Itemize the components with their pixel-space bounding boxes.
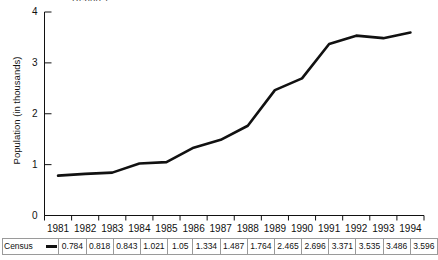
- y-axis-tick-label: 2: [20, 108, 38, 119]
- table-cell-value: 3.596: [410, 239, 437, 255]
- y-axis-tick-label: 3: [20, 57, 38, 68]
- x-axis-tick-label: 1985: [151, 223, 181, 234]
- table-cell-value: 0.843: [113, 239, 140, 255]
- table-cell-value: 1.021: [140, 239, 167, 255]
- chart-plot-svg: [0, 0, 438, 232]
- table-cell-value: 2.465: [274, 239, 301, 255]
- y-axis-tick-label: 1: [20, 159, 38, 170]
- table-cell-value: 1.334: [193, 239, 220, 255]
- census-data-table: Census 0.7840.8180.8431.0211.051.3341.48…: [2, 238, 438, 255]
- x-axis-tick-label: 1984: [124, 223, 154, 234]
- table-cell-value: 2.696: [302, 239, 329, 255]
- line-marker-icon: [46, 245, 57, 248]
- table-cell-value: 0.784: [59, 239, 86, 255]
- table-row: Census 0.7840.8180.8431.0211.051.3341.48…: [3, 239, 438, 255]
- x-axis-tick-label: 1982: [70, 223, 100, 234]
- x-axis-tick-label: 1993: [368, 223, 398, 234]
- x-axis-tick-label: 1983: [97, 223, 127, 234]
- y-axis-tick-label: 4: [20, 6, 38, 17]
- table-cell-value: 1.05: [168, 239, 193, 255]
- x-axis-tick-label: 1987: [206, 223, 236, 234]
- y-axis-tick-label: 0: [20, 210, 38, 221]
- table-cell-value: 3.486: [383, 239, 410, 255]
- table-cell-value: 3.371: [329, 239, 356, 255]
- table-cell-value: 1.487: [220, 239, 247, 255]
- table-cell-value: 3.535: [356, 239, 383, 255]
- population-line-chart: Population (in thousands) 01234 19811982…: [0, 0, 438, 232]
- y-axis-ticks: [45, 12, 52, 216]
- x-axis-tick-label: 1990: [287, 223, 317, 234]
- x-axis-tick-label: 1989: [260, 223, 290, 234]
- table-cell-value: 1.764: [247, 239, 274, 255]
- x-axis-tick-label: 1991: [314, 223, 344, 234]
- chart-axes: [45, 12, 425, 221]
- x-axis-tick-label: 1988: [233, 223, 263, 234]
- x-axis-tick-label: 1992: [341, 223, 371, 234]
- table-row-header: Census: [3, 239, 59, 255]
- x-axis-tick-label: 1994: [395, 223, 425, 234]
- series-name-label: Census: [4, 239, 33, 254]
- x-axis-tick-label: 1986: [179, 223, 209, 234]
- x-axis-tick-label: 1981: [43, 223, 73, 234]
- table-cell-value: 0.818: [86, 239, 113, 255]
- x-axis-ticks: [45, 216, 425, 221]
- census-data-line: [58, 33, 410, 176]
